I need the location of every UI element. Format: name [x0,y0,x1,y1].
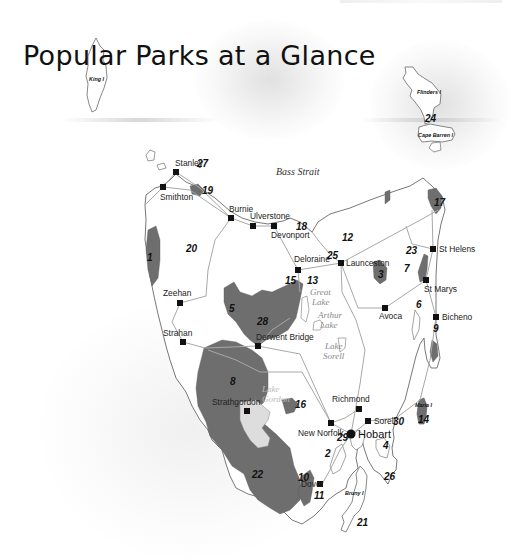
park-label-26: 26 [383,471,396,482]
park-label-7: 7 [404,263,410,274]
town-label-richmond: Richmond [332,394,370,404]
lake-gordon-label-1: Lake [261,384,280,394]
park-label-11: 11 [314,490,325,501]
town-marker-burnie [228,215,234,221]
town-marker-smithton [160,184,166,190]
town-label-st-marys: St Marys [424,284,457,294]
park-label-21: 21 [356,517,369,528]
town-marker-ulverstone [250,223,256,229]
park-label-4: 4 [382,440,389,451]
town-marker-sorell [365,418,371,424]
arthur-lake-label-1: Arthur [317,310,343,320]
park-label-30: 30 [393,416,405,427]
park-label-16: 16 [295,399,307,410]
park-label-27: 27 [196,158,209,169]
park-label-2: 2 [324,448,331,459]
park-label-23: 23 [405,245,418,256]
great-lake-label-2: Lake [311,297,330,307]
park-label-28: 28 [256,316,269,327]
town-label-bicheno: Bicheno [442,312,473,322]
park-label-25: 25 [326,250,339,261]
town-marker-zeehan [177,300,183,306]
park-label-6: 6 [416,299,422,310]
park-label-19: 19 [202,185,214,196]
town-marker-deloraine [295,267,301,273]
park-label-9: 9 [433,323,439,334]
lake-gordon-label-2: Gordon [262,394,290,404]
town-marker-richmond [356,406,362,412]
town-label-strathgordon: Strathgordon [212,397,261,407]
park-label-1: 1 [147,252,153,263]
page-title: Popular Parks at a Glance [23,40,376,71]
town-marker-st-marys [423,277,429,283]
town-label-ulverstone: Ulverstone [250,211,290,221]
park-label-12: 12 [342,232,354,243]
arthur-lake-label-2: Lake [319,320,338,330]
great-lake-label-1: Great [310,287,331,297]
town-label-avoca: Avoca [379,311,402,321]
island-label-king: King I [89,76,104,82]
park-label-10: 10 [298,472,310,483]
town-label-launceston: Launceston [346,258,390,268]
town-marker-new-norfolk [328,420,334,426]
islet [146,150,155,161]
town-marker-strathgordon [244,408,250,414]
bass-strait-label: Bass Strait [276,166,320,177]
town-label-strahan: Strahan [163,328,193,338]
town-marker-stanley [173,169,179,175]
town-marker-derwent-bridge [255,343,261,349]
town-label-smithton: Smithton [160,192,193,202]
park-label-29: 29 [336,432,349,443]
lake-sorell-label-2: Sorell [323,351,345,361]
town-marker-st-helens [430,246,436,252]
town-label-deloraine: Deloraine [294,254,330,264]
park-label-22: 22 [251,469,264,480]
park-label-5: 5 [229,303,235,314]
park-label-24: 24 [424,113,437,124]
park-label-13: 13 [307,275,319,286]
town-marker-strahan [180,339,186,345]
park-label-17: 17 [434,197,446,208]
capital-label-hobart: Hobart [358,428,391,440]
islet [157,163,166,170]
park-label-15: 15 [285,275,297,286]
lake-sorell-label-1: Lake [324,341,343,351]
island-label-cape-barren: Cape Barren I [418,132,454,138]
island-label-maria: Maria I [415,402,433,408]
island-label-bruny: Bruny I [345,490,364,496]
cape-barren-island: Cape Barren I [418,124,455,152]
town-label-zeehan: Zeehan [163,288,192,298]
park-label-18: 18 [296,221,308,232]
town-marker-launceston [338,260,344,266]
park-label-14: 14 [418,414,430,425]
park-label-8: 8 [230,376,236,387]
park-label-20: 20 [185,243,198,254]
park-label-3: 3 [378,269,384,280]
town-marker-bicheno [433,314,439,320]
town-marker-devonport [271,223,277,229]
island-label-flinders: Flinders I [417,89,441,95]
town-label-derwent-bridge: Derwent Bridge [256,332,314,342]
town-label-st-helens: St Helens [439,244,475,254]
